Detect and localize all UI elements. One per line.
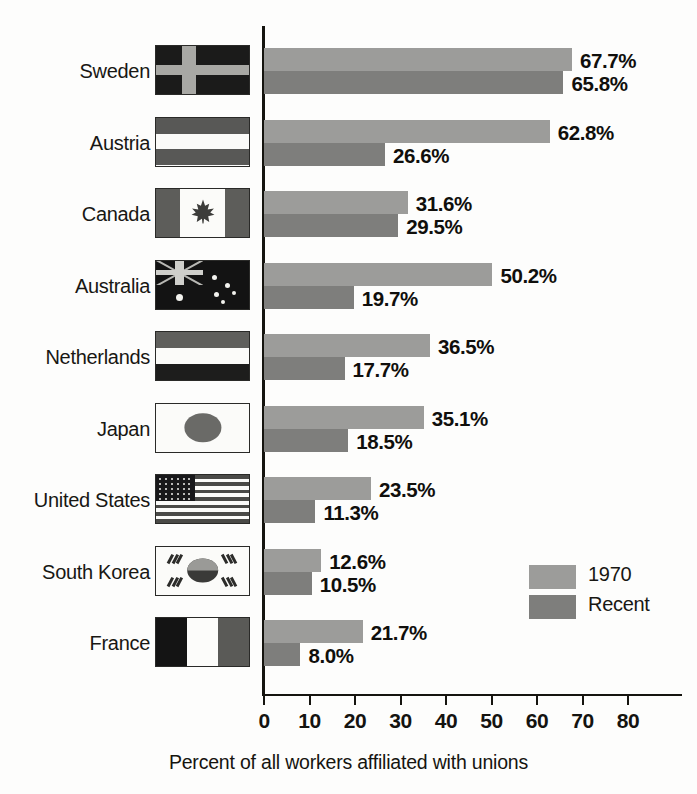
x-tick-50 <box>491 694 493 705</box>
bar-recent-south-korea <box>264 572 312 595</box>
x-tick-40 <box>445 694 447 705</box>
netherlands-flag <box>155 331 250 381</box>
france-flag <box>155 617 250 667</box>
bar-1970-sweden <box>264 48 572 71</box>
x-tick-label-40: 40 <box>426 709 466 733</box>
bar-value-recent-canada: 29.5% <box>406 215 462 239</box>
x-tick-label-50: 50 <box>472 709 512 733</box>
x-tick-label-20: 20 <box>335 709 375 733</box>
x-tick-label-0: 0 <box>244 709 284 733</box>
bar-value-recent-australia: 19.7% <box>362 287 418 311</box>
bar-1970-japan <box>264 406 424 429</box>
x-axis-label: Percent of all workers affiliated with u… <box>0 751 697 774</box>
bar-value-recent-south-korea: 10.5% <box>320 573 376 597</box>
x-tick-30 <box>400 694 402 705</box>
bar-value-recent-sweden: 65.8% <box>571 72 627 96</box>
x-tick-10 <box>309 694 311 705</box>
bar-1970-australia <box>264 263 492 286</box>
x-tick-label-30: 30 <box>381 709 421 733</box>
bar-1970-france <box>264 620 363 643</box>
bar-recent-france <box>264 643 300 666</box>
south-korea-flag <box>155 546 250 596</box>
country-label-japan: Japan <box>0 418 150 441</box>
x-tick-0 <box>263 694 265 705</box>
x-tick-label-10: 10 <box>290 709 330 733</box>
bar-recent-united-states <box>264 500 315 523</box>
bar-recent-japan <box>264 429 348 452</box>
plot-area: 01020304050607080 Sweden67.7%65.8%Austri… <box>0 0 697 794</box>
legend-label-recent: Recent <box>588 593 650 616</box>
country-label-netherlands: Netherlands <box>0 346 150 369</box>
japan-flag <box>155 403 250 453</box>
bar-1970-united-states <box>264 477 371 500</box>
x-tick-20 <box>354 694 356 705</box>
bar-recent-canada <box>264 214 398 237</box>
legend-swatch-1970 <box>529 565 576 589</box>
bar-recent-netherlands <box>264 357 345 380</box>
bar-recent-sweden <box>264 71 563 94</box>
x-axis-line <box>262 694 682 696</box>
bar-recent-australia <box>264 286 354 309</box>
x-tick-label-60: 60 <box>517 709 557 733</box>
austria-flag <box>155 117 250 167</box>
country-label-canada: Canada <box>0 203 150 226</box>
maple-leaf-icon <box>190 198 216 224</box>
legend-label-1970: 1970 <box>588 563 631 586</box>
bar-value-1970-netherlands: 36.5% <box>438 335 494 359</box>
bar-value-recent-netherlands: 17.7% <box>353 358 409 382</box>
bar-value-1970-united-states: 23.5% <box>379 478 435 502</box>
bar-value-1970-austria: 62.8% <box>558 121 614 145</box>
x-tick-70 <box>582 694 584 705</box>
country-label-sweden: Sweden <box>0 60 150 83</box>
x-tick-60 <box>536 694 538 705</box>
x-tick-label-80: 80 <box>608 709 648 733</box>
bar-1970-netherlands <box>264 334 430 357</box>
bar-value-recent-austria: 26.6% <box>393 144 449 168</box>
x-tick-label-70: 70 <box>563 709 603 733</box>
country-label-australia: Australia <box>0 275 150 298</box>
x-tick-80 <box>627 694 629 705</box>
bar-1970-austria <box>264 120 550 143</box>
bar-value-1970-canada: 31.6% <box>416 192 472 216</box>
bar-value-1970-france: 21.7% <box>371 621 427 645</box>
bar-value-1970-japan: 35.1% <box>432 407 488 431</box>
bar-value-1970-australia: 50.2% <box>500 264 556 288</box>
united-states-flag <box>155 474 250 524</box>
country-label-france: France <box>0 632 150 655</box>
canada-flag <box>155 188 250 238</box>
bar-1970-south-korea <box>264 549 321 572</box>
bar-value-1970-south-korea: 12.6% <box>329 550 385 574</box>
country-label-austria: Austria <box>0 132 150 155</box>
legend-swatch-recent <box>529 595 576 619</box>
bar-1970-canada <box>264 191 408 214</box>
bar-value-recent-france: 8.0% <box>308 644 353 668</box>
bar-recent-austria <box>264 143 385 166</box>
country-label-united-states: United States <box>0 489 150 512</box>
bar-value-recent-japan: 18.5% <box>356 430 412 454</box>
bar-value-recent-united-states: 11.3% <box>323 501 378 525</box>
bar-value-1970-sweden: 67.7% <box>580 49 636 73</box>
australia-flag <box>155 260 250 310</box>
country-label-south-korea: South Korea <box>0 561 150 584</box>
sweden-flag <box>155 45 250 95</box>
union-membership-bar-chart: 01020304050607080 Sweden67.7%65.8%Austri… <box>0 0 697 794</box>
